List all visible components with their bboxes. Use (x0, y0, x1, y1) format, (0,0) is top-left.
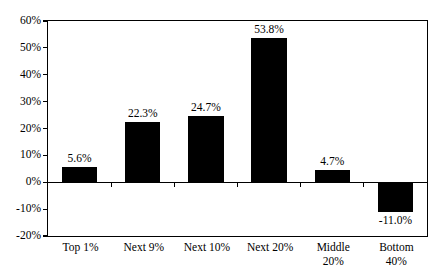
y-axis-tick-label: 30% (20, 96, 41, 108)
x-axis-category-label: Bottom 40% (379, 241, 414, 268)
bar (378, 182, 413, 212)
y-axis-tick-label: -20% (16, 230, 41, 242)
bar-chart: 60%50%40%30%20%10%0%-10%-20%5.6%22.3%24.… (0, 0, 442, 275)
y-axis-tick (43, 101, 48, 102)
x-axis-tick (111, 182, 112, 187)
y-axis-tick-label: 50% (20, 42, 41, 54)
y-axis-tick (43, 235, 48, 236)
bar (188, 116, 223, 182)
y-axis-tick-label: 20% (20, 123, 41, 135)
y-axis-tick (43, 209, 48, 210)
y-axis-tick (43, 74, 48, 75)
bar (251, 38, 286, 183)
bar-value-label: 4.7% (320, 156, 344, 168)
x-axis-category-labels: Top 1%Next 9%Next 10%Next 20%Middle 20%B… (47, 241, 428, 275)
y-axis-tick-label: 60% (20, 15, 41, 27)
x-axis-tick (300, 182, 301, 187)
x-axis-category-label: Next 10% (184, 241, 230, 255)
bar (315, 170, 350, 183)
plot-inner: 60%50%40%30%20%10%0%-10%-20%5.6%22.3%24.… (48, 21, 427, 236)
y-axis-tick (43, 128, 48, 129)
bar (62, 167, 97, 182)
y-axis-tick (43, 47, 48, 48)
x-axis-category-label: Top 1% (63, 241, 99, 255)
plot-area: 60%50%40%30%20%10%0%-10%-20%5.6%22.3%24.… (47, 20, 428, 237)
y-axis-tick-label: 40% (20, 69, 41, 81)
y-axis-tick-label: 10% (20, 150, 41, 162)
bar-value-label: -11.0% (379, 215, 412, 227)
x-axis-category-label: Next 9% (123, 241, 164, 255)
y-axis-tick-label: 0% (26, 177, 41, 189)
bar-value-label: 5.6% (68, 153, 92, 165)
bar-value-label: 24.7% (191, 102, 221, 114)
x-axis-category-label: Next 20% (247, 241, 293, 255)
bar (125, 122, 160, 182)
x-axis-tick (237, 182, 238, 187)
x-axis-tick (363, 182, 364, 187)
x-axis-category-label: Middle 20% (317, 241, 350, 268)
y-axis-tick (43, 20, 48, 21)
bar-value-label: 53.8% (254, 24, 284, 36)
y-axis-tick (43, 155, 48, 156)
bar-value-label: 22.3% (128, 108, 158, 120)
y-axis-tick-label: -10% (16, 203, 41, 215)
x-axis-tick (174, 182, 175, 187)
